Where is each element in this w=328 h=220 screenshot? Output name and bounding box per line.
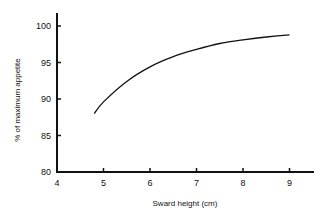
x-tick-label: 7 bbox=[194, 178, 199, 188]
y-tick-label: 100 bbox=[36, 21, 51, 31]
x-tick-label: 9 bbox=[287, 178, 292, 188]
y-tick-label: 85 bbox=[41, 131, 51, 141]
y-tick-label: 95 bbox=[41, 58, 51, 68]
line-chart: 80859095100 456789 Sward height (cm) % o… bbox=[0, 0, 328, 220]
y-tick-label: 90 bbox=[41, 94, 51, 104]
y-axis-title: % of maximum appetite bbox=[13, 58, 22, 142]
data-line bbox=[94, 35, 289, 114]
x-axis-title: Sward height (cm) bbox=[153, 199, 218, 208]
x-tick-label: 8 bbox=[240, 178, 245, 188]
x-tick-label: 4 bbox=[54, 178, 59, 188]
x-tick-label: 5 bbox=[101, 178, 106, 188]
y-tick-label: 80 bbox=[41, 167, 51, 177]
x-tick-label: 6 bbox=[147, 178, 152, 188]
